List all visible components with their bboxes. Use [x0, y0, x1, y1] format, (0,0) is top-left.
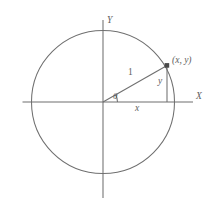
- x-axis-label: X: [196, 92, 202, 102]
- horizontal-leg-label: x: [135, 104, 139, 114]
- point-coordinate-label: (x, y): [172, 56, 192, 66]
- y-axis-label: Y: [107, 16, 112, 26]
- unit-circle-figure: Y X (x, y) 1 θ x y: [0, 0, 215, 207]
- angle-theta-label: θ: [113, 92, 117, 101]
- point-marker: [165, 63, 170, 68]
- radius-length-label: 1: [128, 68, 133, 78]
- figure-canvas: [0, 0, 215, 207]
- vertical-leg-label: y: [158, 77, 162, 87]
